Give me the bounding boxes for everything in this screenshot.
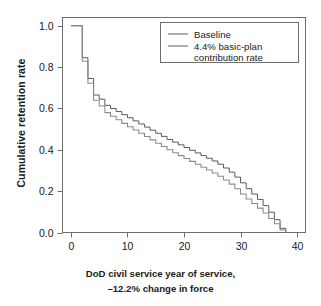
chart-legend: Baseline 4.4% basic-plan contribution ra… — [161, 23, 299, 63]
x-axis-ticks — [72, 233, 298, 238]
x-tick-label: 0 — [69, 240, 75, 252]
legend-label-contribution-line2: contribution rate — [194, 52, 263, 63]
x-axis-tick-labels: 010203040 — [69, 240, 304, 252]
y-tick-label: 1.0 — [39, 20, 54, 32]
y-tick-label: 0.2 — [39, 185, 54, 197]
x-tick-label: 20 — [179, 240, 191, 252]
y-axis-tick-labels: 0.00.20.40.60.81.0 — [39, 20, 54, 239]
x-axis-label-line1: DoD civil service year of service, — [86, 268, 235, 279]
x-tick-label: 30 — [236, 240, 248, 252]
retention-step-chart: 010203040 0.00.20.40.60.81.0 Baseline 4.… — [0, 0, 321, 306]
y-axis-label: Cumulative retention rate — [10, 0, 32, 248]
y-tick-label: 0.6 — [39, 102, 54, 114]
x-axis-label: DoD civil service year of service, –12.2… — [0, 266, 321, 296]
y-axis-ticks — [58, 27, 63, 234]
x-axis-label-line2: –12.2% change in force — [0, 281, 321, 296]
x-tick-label: 10 — [122, 240, 134, 252]
legend-label-baseline: Baseline — [194, 29, 231, 40]
x-tick-label: 40 — [292, 240, 304, 252]
y-tick-label: 0.0 — [39, 227, 54, 239]
y-tick-label: 0.4 — [39, 144, 54, 156]
y-tick-label: 0.8 — [39, 61, 54, 73]
figure-container: 010203040 0.00.20.40.60.81.0 Baseline 4.… — [0, 0, 321, 306]
legend-label-contribution-line1: 4.4% basic-plan — [194, 41, 262, 52]
